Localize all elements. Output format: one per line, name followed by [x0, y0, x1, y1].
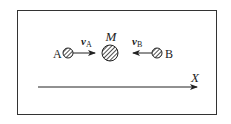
velocity-a-label: vA: [81, 35, 92, 49]
velocity-b-label: vB: [132, 35, 142, 49]
body-a: A: [53, 47, 73, 61]
body-b-label: B: [165, 47, 173, 61]
frame-border: [18, 11, 217, 115]
body-m-label: M: [105, 29, 118, 44]
x-axis-label: X: [190, 70, 200, 85]
body-m: M: [102, 29, 118, 61]
x-axis: X: [38, 70, 200, 87]
body-m-circle: [102, 45, 118, 61]
body-a-circle: [63, 48, 73, 58]
collision-diagram: A vA M vB B X: [0, 0, 231, 124]
body-a-label: A: [53, 47, 62, 61]
body-b: B: [152, 47, 173, 61]
velocity-a: vA: [73, 35, 95, 53]
velocity-b: vB: [132, 35, 152, 53]
body-b-circle: [152, 48, 162, 58]
